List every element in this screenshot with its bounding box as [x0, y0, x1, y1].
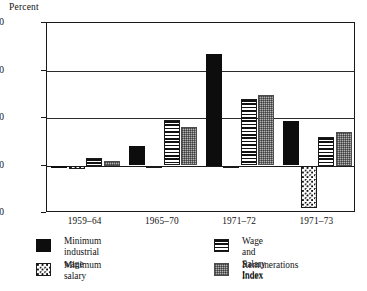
legend-item: Minimum salary [36, 260, 51, 278]
bar [104, 161, 120, 166]
dotted-swatch [36, 263, 51, 276]
x-axis-tick-label: 1971–72 [222, 216, 256, 226]
y-axis-tick-label: 0 [0, 160, 4, 170]
bar [146, 166, 162, 168]
bar [283, 121, 299, 166]
x-axis-tick-label: 1965–70 [145, 216, 179, 226]
bar [129, 146, 145, 165]
bar [318, 137, 334, 166]
gridline [47, 71, 354, 72]
y-axis-tick-label: -10 [0, 207, 4, 217]
y-axis-tick-label: 20 [0, 65, 4, 75]
legend-item-label: Minimum salary [64, 260, 101, 283]
x-axis-tick-label: 1971–73 [299, 216, 333, 226]
bar [164, 120, 180, 166]
legend-item-label: Remunerations Index [242, 260, 298, 283]
bar [86, 158, 102, 165]
legend-item: Remunerations Index [214, 260, 229, 278]
y-axis-title: Percent [9, 2, 39, 12]
x-axis-tick-label: 1959–64 [68, 216, 102, 226]
bar [241, 99, 257, 166]
bar [336, 132, 352, 165]
bar [258, 95, 274, 166]
chart-figure: Percent 3020100-10 1959–641965–701971–72… [0, 0, 367, 291]
legend-item: Wage and Salary Index [214, 236, 229, 254]
bar [69, 166, 85, 169]
bar [51, 166, 67, 169]
gridline [47, 118, 354, 119]
horizontal-stripes-swatch [214, 239, 229, 252]
plot-area [46, 22, 355, 212]
y-axis-tick-label: 30 [0, 17, 4, 27]
bar [301, 166, 317, 209]
checkered-gray-swatch [214, 263, 229, 276]
solid-black-swatch [36, 239, 51, 252]
y-axis-tick-mark [41, 212, 46, 213]
legend-item: Minimum industrial wage [36, 236, 51, 254]
bar [223, 166, 239, 169]
bar [206, 54, 222, 166]
bar [181, 127, 197, 166]
y-axis-tick-label: 10 [0, 112, 4, 122]
